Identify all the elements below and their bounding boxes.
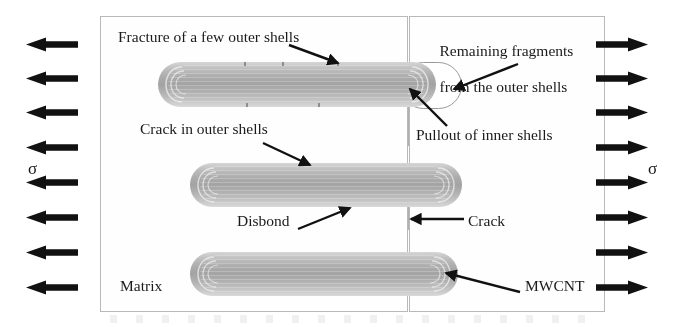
stress-arrow-left-4 <box>26 140 78 155</box>
stress-arrow-right-2 <box>596 71 648 86</box>
stress-arrow-left-3 <box>26 105 78 120</box>
stress-arrow-right-5 <box>596 175 648 190</box>
stress-arrow-left-2 <box>26 71 78 86</box>
end-cap-shells-left <box>160 62 186 107</box>
stress-arrow-right-8 <box>596 280 648 295</box>
label-disbond: Disbond <box>237 212 290 230</box>
stress-arrow-left-7 <box>26 245 78 260</box>
fracture-notch-top-1 <box>244 62 246 66</box>
stress-arrow-left-6 <box>26 210 78 225</box>
label-remaining-fragments-line2: from the outer shells <box>440 78 568 95</box>
stress-symbol-right: σ <box>648 159 657 179</box>
stress-arrow-left-8 <box>26 280 78 295</box>
label-fracture-outer-shells: Fracture of a few outer shells <box>118 28 299 46</box>
stress-arrow-right-6 <box>596 210 648 225</box>
label-mwcnt: MWCNT <box>525 277 584 295</box>
end-cap-shells-left <box>192 163 218 207</box>
label-crack: Crack <box>468 212 505 230</box>
label-crack-in-outer-shells: Crack in outer shells <box>140 120 268 138</box>
nanotube-cracked <box>190 163 462 207</box>
stress-arrow-right-3 <box>596 105 648 120</box>
label-pullout-inner-shells: Pullout of inner shells <box>416 126 552 144</box>
fracture-notch-bottom-2 <box>318 103 320 107</box>
end-cap-shells-left <box>192 252 218 296</box>
nanotube-intact <box>190 252 458 296</box>
stress-arrow-right-7 <box>596 245 648 260</box>
label-remaining-fragments-line1: Remaining fragments <box>440 42 574 59</box>
mwcnt-failure-diagram: σ σ <box>0 0 683 327</box>
scan-artifact-band <box>110 315 600 323</box>
nanotube-fractured <box>158 62 436 107</box>
label-remaining-fragments: Remaining fragments from the outer shell… <box>424 24 573 114</box>
stress-arrow-right-4 <box>596 140 648 155</box>
fracture-notch-top-3 <box>337 62 339 66</box>
label-matrix: Matrix <box>120 277 162 295</box>
matrix-crack-line-upper <box>408 104 409 146</box>
fracture-notch-top-2 <box>282 62 284 66</box>
stress-arrow-right-1 <box>596 37 648 52</box>
stress-arrow-left-1 <box>26 37 78 52</box>
stress-symbol-left: σ <box>28 159 37 179</box>
fracture-notch-bottom-1 <box>246 103 248 107</box>
